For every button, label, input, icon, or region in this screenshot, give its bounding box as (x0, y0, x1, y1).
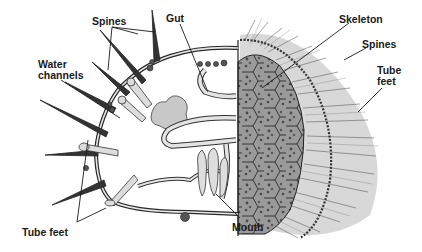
anatomy-illustration (0, 0, 422, 252)
label-water-channels: Water channels (38, 59, 84, 81)
label-tube-feet-right: Tube feet (377, 65, 401, 87)
label-spines-left: Spines (92, 16, 126, 27)
label-skeleton: Skeleton (339, 14, 383, 25)
aristotles-lantern (198, 148, 229, 196)
label-mouth: Mouth (232, 222, 264, 233)
sea-urchin-diagram: Spines Gut Water channels Skeleton Spine… (0, 0, 422, 252)
label-tube-feet-left: Tube feet (22, 227, 68, 238)
label-spines-right: Spines (362, 39, 396, 50)
label-gut: Gut (166, 13, 184, 24)
